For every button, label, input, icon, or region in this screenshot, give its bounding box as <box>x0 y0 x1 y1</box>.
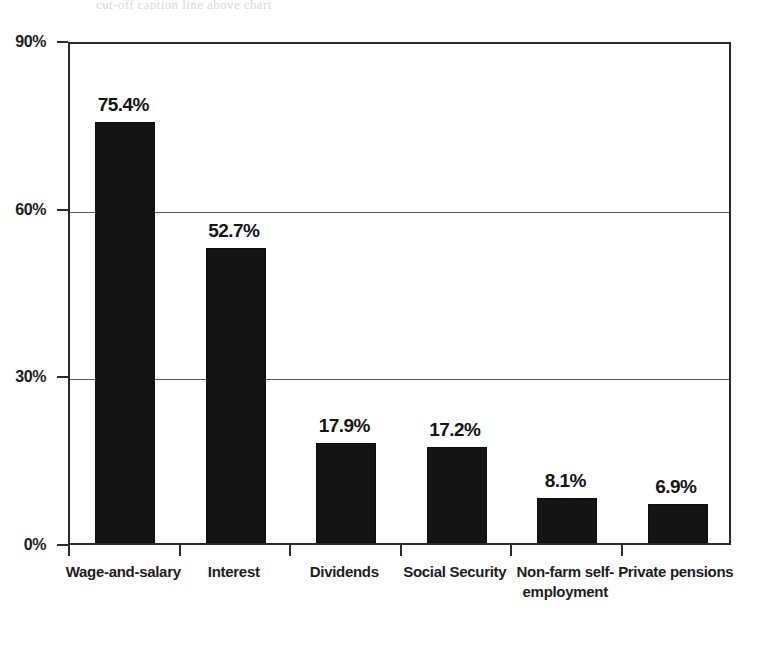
bar <box>206 248 266 543</box>
y-tick-label: 0% <box>24 536 46 554</box>
bar <box>537 498 597 543</box>
x-tick-mark <box>400 545 402 556</box>
x-tick-mark <box>510 545 512 556</box>
y-axis: 0%30%60%90% <box>0 0 58 646</box>
y-tick-mark <box>57 209 68 211</box>
cut-off-caption-sliver: cut-off caption line above chart <box>0 0 762 10</box>
bar-value-label: 52.7% <box>208 220 259 242</box>
x-tick-mark <box>289 545 291 556</box>
bar <box>316 443 376 543</box>
bar-value-label: 17.9% <box>319 415 370 437</box>
x-tick-mark <box>68 545 70 556</box>
x-tick-label: Non-farm self-employment <box>503 562 627 602</box>
gridline <box>70 212 729 213</box>
gridline <box>70 379 729 380</box>
x-tick-label: Wage-and-salary <box>61 562 185 582</box>
x-tick-label: Private pensions <box>614 562 738 582</box>
x-tick-mark <box>179 545 181 556</box>
y-tick-label: 60% <box>15 201 46 219</box>
x-tick-label: Social Security <box>393 562 517 582</box>
x-tick-mark <box>621 545 623 556</box>
bar-chart-figure: cut-off caption line above chart 0%30%60… <box>0 0 762 646</box>
bar-value-label: 8.1% <box>545 470 586 492</box>
x-tick-label: Dividends <box>282 562 406 582</box>
bar <box>427 447 487 543</box>
y-tick-mark <box>57 376 68 378</box>
bar-value-label: 75.4% <box>98 94 149 116</box>
bar <box>95 122 155 543</box>
y-tick-mark <box>57 41 68 43</box>
y-tick-mark <box>57 544 68 546</box>
bar <box>648 504 708 543</box>
plot-area <box>68 42 731 545</box>
bar-value-label: 17.2% <box>429 419 480 441</box>
x-tick-label: Interest <box>172 562 296 582</box>
y-tick-label: 90% <box>15 33 46 51</box>
y-tick-label: 30% <box>15 368 46 386</box>
bar-value-label: 6.9% <box>655 476 696 498</box>
